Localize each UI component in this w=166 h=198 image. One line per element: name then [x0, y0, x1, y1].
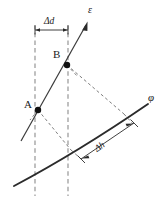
epsilon-arrowhead: [82, 22, 87, 32]
label-phi: φ: [148, 91, 154, 103]
phi-curve-group: [14, 104, 148, 186]
epsilon-line: [21, 25, 86, 141]
figure-container: A B ε φ Δd Δh: [0, 0, 166, 198]
label-epsilon: ε: [88, 4, 92, 15]
geometry-diagram: A B ε φ Δd Δh: [0, 0, 166, 198]
label-delta-d: Δd: [43, 16, 55, 26]
delta-d-dimension-group: [35, 26, 68, 35]
label-point-a: A: [24, 98, 32, 110]
dashed-connectors-group: [30, 65, 133, 159]
delta-d-arrow-left: [36, 28, 41, 32]
delta-h-dimension-group: [78, 120, 139, 164]
dashed-connector-a-to-curve: [38, 110, 71, 150]
delta-h-dimension-line: [81, 123, 134, 159]
point-markers-group: [35, 62, 70, 113]
label-delta-h: Δh: [92, 139, 107, 154]
label-point-b: B: [53, 48, 60, 60]
dashed-connector-b-to-curve: [67, 65, 124, 114]
point-marker-b: [64, 62, 70, 68]
point-marker-a: [35, 107, 41, 113]
phi-curve: [14, 104, 148, 186]
epsilon-line-group: [21, 22, 88, 142]
delta-h-tick-right: [131, 120, 139, 128]
delta-d-arrow-right: [63, 28, 68, 32]
